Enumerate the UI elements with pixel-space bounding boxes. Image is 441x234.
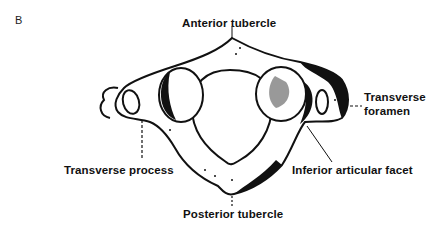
- label-posterior-tubercle: Posterior tubercle: [183, 208, 283, 220]
- label-transverse-foramen-1: Transverse: [364, 91, 426, 103]
- label-transverse-foramen-2: foramen: [364, 105, 410, 117]
- label-anterior-tubercle: Anterior tubercle: [182, 17, 276, 29]
- right-transverse-foramen: [316, 90, 328, 114]
- vertebra-illustration: [0, 0, 441, 234]
- label-inferior-articular-facet: Inferior articular facet: [292, 164, 413, 176]
- label-transverse-process: Transverse process: [64, 164, 174, 176]
